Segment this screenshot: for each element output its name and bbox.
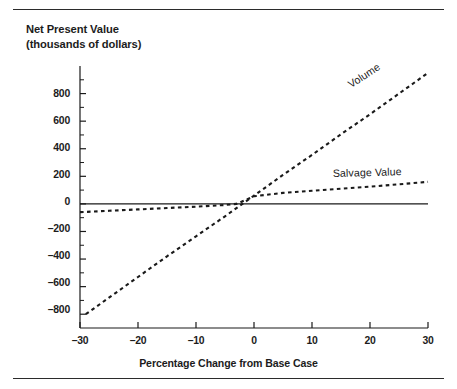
series-line-salvage (80, 182, 428, 212)
y-axis-ticks (80, 80, 86, 314)
x-axis-ticks (80, 322, 428, 328)
plot-area (0, 0, 457, 389)
chart-figure: Net Present Value (thousands of dollars)… (0, 0, 457, 389)
series-line-volume (86, 73, 428, 314)
